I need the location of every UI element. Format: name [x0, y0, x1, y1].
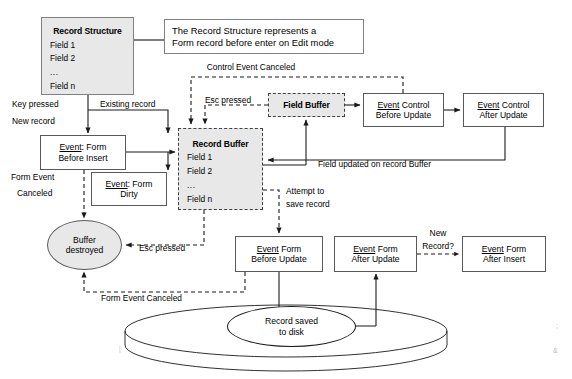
node-record-saved-to-disk[interactable]: Record saved to disk [227, 306, 356, 347]
event-form-after-insert-rest: Form [504, 244, 526, 254]
event-form-after-update-rest: Form [375, 244, 397, 254]
edge-existing-record [88, 110, 168, 133]
node-record-buffer[interactable]: Record Buffer Field 1 Field 2 ... Field … [178, 128, 263, 210]
event-control-before-update-line-1: Event Control [377, 100, 429, 110]
event-form-dirty-line-2: Dirty [120, 189, 138, 199]
record-structure-title: Record Structure [53, 26, 122, 36]
event-form-dirty-rest: : Form [128, 179, 153, 189]
node-event-form-after-insert[interactable]: Event Form After Insert [462, 236, 546, 272]
annotation-line-1: The Record Structure represents a [172, 25, 316, 36]
node-annotation: The Record Structure represents a Form r… [164, 19, 364, 54]
event-form-before-insert-rest: : Form [82, 142, 107, 152]
node-buffer-destroyed[interactable]: Buffer destroyed [47, 220, 122, 270]
event-form-before-update-rest: Form [279, 244, 301, 254]
label-field-updated-on-record-buffer: Field updated on record Buffer [318, 159, 431, 170]
label-new-record: New record [12, 116, 55, 127]
event-form-after-insert-line-2: After Insert [483, 254, 525, 264]
scan-artifact-right: ; [556, 322, 558, 329]
record-buffer-field-2: Field 2 [187, 166, 212, 176]
record-buffer-field-1: Field 1 [187, 152, 212, 162]
label-existing-record: Existing record [100, 99, 155, 110]
node-event-control-after-update[interactable]: Event Control After Update [463, 93, 544, 127]
event-keyword: Event [377, 100, 399, 110]
label-new-record-question-1: New [408, 228, 468, 239]
event-form-after-update-line-2: After Update [351, 254, 399, 264]
event-control-after-update-rest: Control [499, 100, 529, 110]
edge-esc-pressed-mid [126, 210, 204, 245]
event-control-after-update-line-2: After Update [479, 110, 527, 120]
record-buffer-title: Record Buffer [193, 139, 249, 149]
label-attempt-to-save-1: Attempt to [286, 186, 324, 197]
event-form-after-insert-line-1: Event Form [482, 244, 526, 254]
record-structure-field-1: Field 1 [50, 40, 75, 50]
event-keyword: Event [353, 244, 375, 254]
event-keyword: Event [106, 179, 128, 189]
event-keyword: Event [60, 142, 82, 152]
edge-esc-pressed-top [205, 105, 268, 124]
record-structure-field-n: Field n [50, 81, 75, 91]
event-keyword: Event [257, 244, 279, 254]
node-event-control-before-update[interactable]: Event Control Before Update [363, 93, 444, 127]
label-form-event-canceled-bottom: Form Event Canceled [101, 293, 182, 304]
buffer-destroyed-line-2: destroyed [66, 245, 104, 255]
event-control-before-update-line-2: Before Update [376, 110, 431, 120]
event-form-before-update-line-2: Before Update [251, 254, 306, 264]
node-event-form-dirty[interactable]: Event: Form Dirty [91, 172, 167, 206]
label-form-event-canceled-left-2: Canceled [17, 188, 52, 199]
event-form-before-update-line-1: Event Form [257, 244, 301, 254]
label-form-event-canceled-left-1: Form Event [11, 172, 54, 183]
record-saved-line-2: to disk [279, 327, 304, 337]
event-control-after-update-line-1: Event Control [477, 100, 529, 110]
label-control-event-canceled: Control Event Canceled [186, 62, 316, 73]
field-buffer-title: Field Buffer [283, 100, 330, 110]
event-form-before-insert-line-2: Before Insert [58, 153, 107, 163]
event-keyword: Event [477, 100, 499, 110]
node-event-form-after-update[interactable]: Event Form After Update [334, 236, 417, 272]
label-new-record-question-2: Record? [408, 241, 468, 252]
record-structure-field-ellipsis: ... [50, 69, 75, 76]
event-control-before-update-rest: Control [399, 100, 429, 110]
label-key-pressed: Key pressed [12, 99, 59, 110]
event-form-after-update-line-1: Event Form [353, 244, 397, 254]
node-field-buffer[interactable]: Field Buffer [268, 93, 345, 117]
edge-field-updated-back [268, 127, 505, 160]
edge-attempt-save-record [263, 190, 279, 233]
node-event-form-before-insert[interactable]: Event: Form Before Insert [40, 135, 126, 170]
label-attempt-to-save-2: save record [286, 199, 330, 210]
scan-artifact-right-2: & [553, 347, 558, 354]
event-keyword: Event [482, 244, 504, 254]
buffer-destroyed-line-1: Buffer [73, 235, 96, 245]
event-form-before-insert-line-1: Event: Form [60, 142, 107, 152]
label-esc-pressed-top: Esc pressed [205, 95, 251, 106]
record-buffer-field-n: Field n [187, 194, 212, 204]
edge-form-event-canceled-bottom [84, 272, 245, 292]
record-saved-line-1: Record saved [265, 316, 318, 326]
record-buffer-field-ellipsis: ... [187, 182, 212, 189]
label-esc-pressed-mid: Esc pressed [139, 243, 185, 254]
record-structure-field-2: Field 2 [50, 53, 75, 63]
node-record-structure[interactable]: Record Structure Field 1 Field 2 ... Fie… [41, 17, 134, 95]
diagram-canvas: Record Structure Field 1 Field 2 ... Fie… [0, 0, 572, 379]
annotation-line-2: Form record before enter on Edit mode [172, 37, 334, 48]
event-form-dirty-line-1: Event: Form [106, 179, 153, 189]
scan-artifact-left: | [119, 345, 121, 352]
node-event-form-before-update[interactable]: Event Form Before Update [235, 236, 323, 272]
